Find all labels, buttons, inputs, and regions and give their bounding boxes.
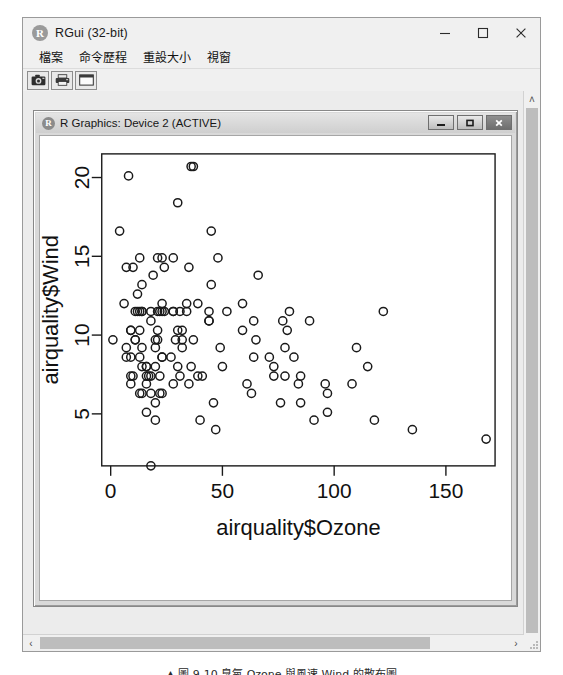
data-point [247,389,255,397]
data-point [133,290,141,298]
printer-icon [55,74,70,86]
data-point [252,336,260,344]
maximize-icon[interactable] [464,18,502,48]
data-point [185,380,193,388]
data-point [136,254,144,262]
data-point [250,353,258,361]
data-point [279,317,287,325]
minimize-icon[interactable] [428,115,454,130]
data-point [187,363,195,371]
data-point [158,353,166,361]
data-point [283,326,291,334]
data-point [174,363,182,371]
graphics-window-controls [428,115,512,130]
scroll-left-icon[interactable]: ‹ [23,635,39,651]
data-point [214,254,222,262]
data-point [223,307,231,315]
data-point [147,389,155,397]
x-tick-label: 100 [317,479,352,502]
data-point [297,399,305,407]
scroll-right-icon[interactable]: › [508,635,524,651]
data-point [136,326,144,334]
data-point [176,372,184,380]
data-point [281,372,289,380]
data-point [169,254,177,262]
data-point [379,307,387,315]
copy-to-clipboard-button[interactable] [27,71,49,90]
data-point [482,435,490,443]
data-point [154,326,162,334]
data-point [138,344,146,352]
graphics-window-title-bar[interactable]: R R Graphics: Device 2 (ACTIVE) [36,113,515,133]
data-point [352,344,360,352]
y-tick-label: 20 [70,166,93,189]
data-points [109,162,490,470]
data-point [305,317,313,325]
data-point [216,344,224,352]
y-tick-label: 5 [70,408,93,420]
data-point [127,380,135,388]
resize-grip-icon [527,638,539,650]
data-point [127,326,135,334]
scroll-up-icon[interactable]: ˄ [524,91,540,107]
restore-icon[interactable] [457,115,483,130]
x-tick-label: 50 [211,479,234,502]
close-icon[interactable] [502,18,540,48]
data-point [238,300,246,308]
data-point [151,399,159,407]
plot-canvas: 0501001505101520airquality$Ozoneairquali… [39,135,512,601]
data-point [194,300,202,308]
data-point [297,372,305,380]
window-icon [79,74,94,86]
camera-icon [31,74,46,86]
vertical-scrollbar-thumb[interactable] [526,108,538,633]
data-point [151,363,159,371]
data-point [109,336,117,344]
data-point [142,380,150,388]
horizontal-scrollbar[interactable]: ‹ › [23,634,524,651]
scrollbar-corner [524,635,540,651]
data-point [370,416,378,424]
menu-item-history[interactable]: 命令歷程 [71,48,135,68]
data-point [138,281,146,289]
data-point [212,426,220,434]
data-point [408,426,416,434]
menu-bar: 檔案 命令歷程 重設大小 視窗 [23,48,540,68]
y-axis-label: airquality$Wind [40,235,63,384]
data-point [270,372,278,380]
data-point [281,344,289,352]
data-point [265,353,273,361]
data-point [348,380,356,388]
data-point [196,416,204,424]
horizontal-scrollbar-thumb[interactable] [40,637,430,649]
r-logo-icon: R [32,25,48,41]
menu-item-resize[interactable]: 重設大小 [135,48,199,68]
menu-item-windows[interactable]: 視窗 [199,48,239,68]
mdi-client-area: R R Graphics: Device 2 (ACTIVE) [22,91,541,652]
data-point [218,363,226,371]
y-tick-label: 15 [70,245,93,268]
data-point [131,336,139,344]
vertical-scrollbar[interactable]: ˄ [523,91,540,635]
data-point [285,307,293,315]
minimize-icon[interactable] [426,18,464,48]
menu-item-file[interactable]: 檔案 [31,48,71,68]
data-point [205,317,213,325]
data-point [310,416,318,424]
data-point [185,263,193,271]
data-point [167,353,175,361]
data-point [323,408,331,416]
rgui-title-bar: R RGui (32-bit) [23,18,540,48]
data-point [116,227,124,235]
close-icon[interactable] [486,115,512,130]
print-button[interactable] [51,71,73,90]
data-point [209,399,217,407]
data-point [189,336,197,344]
data-point [142,408,150,416]
rgui-window-controls [426,18,540,48]
data-point [169,380,177,388]
window-button[interactable] [75,71,97,90]
data-point [294,380,302,388]
data-point [207,281,215,289]
data-point [243,380,251,388]
